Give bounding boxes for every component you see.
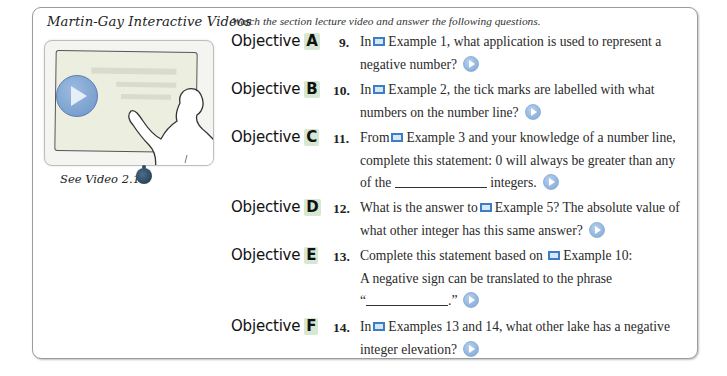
objective-letter: E (304, 247, 318, 264)
objective-f-label: ObjectiveF (231, 317, 318, 335)
question-13: Complete this statement based on Example… (360, 245, 632, 313)
see-video-link[interactable]: See Video 2.1 (60, 172, 140, 186)
video-thumbnail[interactable] (44, 40, 214, 166)
question-10: InExample 2, the tick marks are labelled… (360, 79, 654, 124)
question-text: Example 1, what application is used to r… (388, 34, 661, 49)
question-text: Complete this statement based on (360, 248, 543, 263)
film-clip-icon[interactable] (548, 251, 560, 260)
question-text: integers. (490, 175, 536, 190)
objective-letter: B (304, 81, 319, 98)
objective-letter: D (304, 199, 320, 216)
objective-letter: F (304, 318, 318, 335)
objective-word: Objective (231, 198, 300, 216)
question-number: 9. (339, 35, 349, 51)
question-text: In (360, 34, 371, 49)
film-clip-icon[interactable] (480, 203, 492, 212)
play-answer-icon[interactable] (525, 104, 541, 120)
question-number: 10. (333, 83, 350, 99)
question-text: negative number? (360, 57, 457, 72)
question-14: InExamples 13 and 14, what other lake ha… (360, 316, 670, 361)
question-text: Examples 13 and 14, what other lake has … (388, 319, 670, 334)
instructions: Watch the section lecture video and answ… (232, 15, 541, 27)
objective-e-label: ObjectiveE (231, 246, 318, 264)
question-number: 12. (333, 201, 350, 217)
film-clip-icon[interactable] (373, 37, 385, 46)
play-answer-icon[interactable] (463, 292, 479, 308)
question-number: 11. (333, 131, 349, 147)
question-text: From (360, 130, 389, 145)
objective-letter: C (304, 129, 319, 146)
question-text: Example 10: (563, 248, 632, 263)
question-text: of the (360, 175, 391, 190)
question-text: A negative sign can be translated to the… (360, 271, 612, 286)
question-9: InExample 1, what application is used to… (360, 31, 661, 76)
film-clip-icon[interactable] (373, 85, 385, 94)
objective-a-label: ObjectiveA (231, 32, 320, 50)
sidebar-heading: Martin-Gay Interactive Videos (47, 14, 252, 29)
play-answer-icon[interactable] (589, 222, 605, 238)
objective-b-label: ObjectiveB (231, 80, 320, 98)
question-number: 13. (333, 249, 350, 265)
answer-blank (395, 175, 487, 188)
question-text: what other integer has this same answer? (360, 223, 583, 238)
question-text: In (360, 82, 371, 97)
objective-word: Objective (231, 80, 300, 98)
objective-word: Objective (231, 317, 300, 335)
question-11: FromExample 3 and your knowledge of a nu… (360, 127, 676, 195)
play-answer-icon[interactable] (543, 174, 559, 190)
play-video-icon[interactable] (56, 75, 98, 117)
question-text: Example 5? The absolute value of (495, 200, 680, 215)
question-text: Example 3 and your knowledge of a number… (406, 130, 675, 145)
objective-c-label: ObjectiveC (231, 128, 319, 146)
question-number: 14. (333, 320, 350, 336)
objective-word: Objective (231, 128, 300, 146)
film-clip-icon[interactable] (391, 133, 403, 142)
answer-blank (366, 293, 448, 306)
question-text: Example 2, the tick marks are labelled w… (388, 82, 654, 97)
play-answer-icon[interactable] (463, 341, 479, 357)
question-text: numbers on the number line? (360, 105, 519, 120)
objective-word: Objective (231, 246, 300, 264)
question-text: What is the answer to (360, 200, 478, 215)
presenter-silhouette-icon (125, 81, 214, 166)
question-text: complete this statement: 0 will always b… (360, 153, 675, 168)
question-12: What is the answer toExample 5? The abso… (360, 197, 680, 242)
question-text: integer elevation? (360, 342, 457, 357)
play-answer-icon[interactable] (463, 56, 479, 72)
video-disc-icon[interactable] (136, 168, 152, 184)
question-text: .” (448, 293, 457, 308)
objective-word: Objective (231, 32, 300, 50)
question-text: In (360, 319, 371, 334)
objective-d-label: ObjectiveD (231, 198, 321, 216)
film-clip-icon[interactable] (373, 322, 385, 331)
objective-letter: A (304, 33, 319, 50)
